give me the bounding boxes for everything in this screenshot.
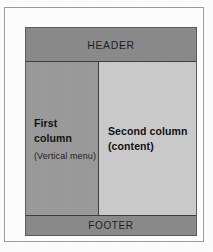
footer-label: FOOTER (88, 220, 133, 231)
first-column-subtitle: (Vertical menu) (34, 151, 98, 161)
second-column-title-line1: Second column (108, 124, 196, 138)
figure-frame: HEADER First column (Vertical menu) Seco… (4, 7, 204, 242)
second-column-region: Second column (content) (99, 62, 196, 215)
first-column-title-line2: column (34, 131, 98, 145)
header-region: HEADER (26, 28, 196, 62)
header-label: HEADER (87, 39, 134, 51)
scan-page: HEADER First column (Vertical menu) Seco… (0, 0, 213, 252)
first-column-title-line1: First (34, 116, 98, 130)
footer-region: FOOTER (26, 215, 196, 235)
columns-row: First column (Vertical menu) Second colu… (26, 62, 196, 215)
first-column-region: First column (Vertical menu) (26, 62, 99, 215)
second-column-title-line2: (content) (108, 139, 196, 153)
layout-diagram: HEADER First column (Vertical menu) Seco… (25, 27, 197, 236)
